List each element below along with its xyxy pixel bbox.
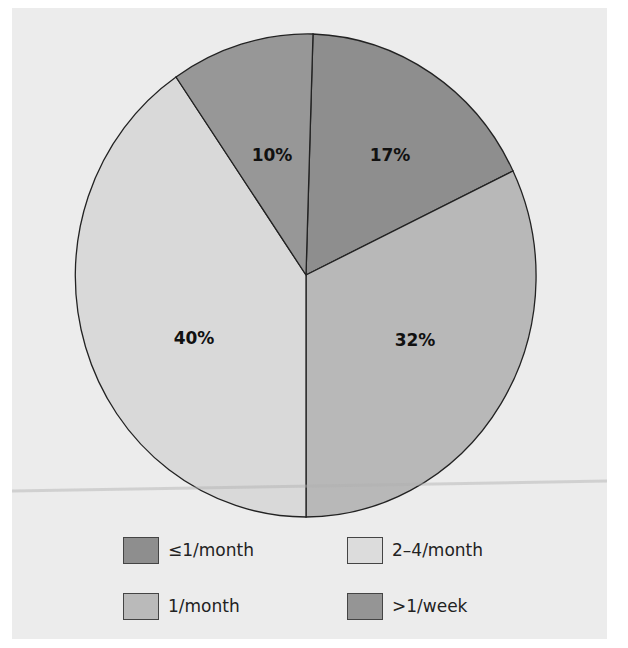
legend-swatch-2-4-month [347,537,383,564]
legend-swatch-le1-month [123,537,159,564]
legend-label-1-month: 1/month [168,596,240,616]
legend-item-le1-month: ≤1/month [123,535,254,565]
legend-label-gt1-week: >1/week [392,596,467,616]
legend-item-gt1-week: >1/week [347,591,467,621]
legend-swatch-1-month [123,593,159,620]
legend-item-2-4-month: 2–4/month [347,535,483,565]
chart-legend: ≤1/month 2–4/month 1/month >1/week [0,0,628,648]
legend-label-le1-month: ≤1/month [168,540,254,560]
legend-label-2-4-month: 2–4/month [392,540,483,560]
legend-item-1-month: 1/month [123,591,240,621]
legend-swatch-gt1-week [347,593,383,620]
